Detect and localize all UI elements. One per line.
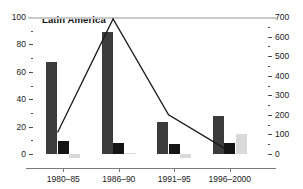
right-axis-minor-tick <box>268 27 270 28</box>
left-axis-tick <box>29 154 33 155</box>
bar-series-2-black-0 <box>58 141 69 154</box>
bar-series-3-light-3 <box>236 134 247 154</box>
right-axis-minor-tick <box>268 125 270 126</box>
left-axis-minor-tick <box>31 31 33 32</box>
chart-container: Latin America 020406080100 0100200300400… <box>0 0 303 189</box>
right-axis-tick <box>268 37 272 38</box>
right-axis-tick-label: 400 <box>275 72 289 81</box>
right-axis-tick <box>268 56 272 57</box>
right-axis-minor-tick <box>268 105 270 106</box>
right-axis-minor-tick <box>268 66 270 67</box>
bar-series-2-black-1 <box>113 143 124 154</box>
bar-series-3-light-1 <box>125 153 136 154</box>
right-axis-tick <box>268 134 272 135</box>
zero-baseline <box>28 17 276 19</box>
x-axis-category-label: 1991–95 <box>158 174 191 184</box>
left-axis-minor-tick <box>31 113 33 114</box>
left-axis-tick-label: 60 <box>17 68 26 77</box>
right-axis-tick-label: 100 <box>275 130 289 139</box>
bar-series-3-light-2 <box>180 154 191 158</box>
left-axis-minor-tick <box>31 86 33 87</box>
left-axis-tick <box>29 44 33 45</box>
bar-series-2-black-2 <box>169 144 180 154</box>
left-value-axis: 020406080100 <box>0 17 36 154</box>
bar-series-1-dark-1 <box>102 32 113 154</box>
left-axis-tick <box>29 99 33 100</box>
left-axis-tick-label: 40 <box>17 95 26 104</box>
right-axis-tick-label: 300 <box>275 91 289 100</box>
right-axis-tick-label: 0 <box>275 150 280 159</box>
x-axis-category-label: 1980–85 <box>47 174 80 184</box>
right-axis-tick <box>268 76 272 77</box>
bar-series-3-light-0 <box>69 154 80 158</box>
right-axis-tick-label: 600 <box>275 33 289 42</box>
right-axis-tick-label: 500 <box>275 52 289 61</box>
left-axis-tick-label: 80 <box>17 40 26 49</box>
right-axis-minor-tick <box>268 86 270 87</box>
left-axis-tick-label: 0 <box>21 150 26 159</box>
right-axis-tick-label: 200 <box>275 111 289 120</box>
right-axis-tick <box>268 154 272 155</box>
x-axis-tick <box>63 168 64 172</box>
bar-series-2-black-3 <box>224 143 235 154</box>
right-axis-tick <box>268 95 272 96</box>
plot-area <box>40 17 262 154</box>
left-axis-tick <box>29 72 33 73</box>
left-axis-tick-label: 100 <box>12 13 26 22</box>
x-axis-tick <box>230 168 231 172</box>
left-axis-minor-tick <box>31 140 33 141</box>
x-axis-category-label: 1986–90 <box>102 174 135 184</box>
x-axis-category-label: 1996–2000 <box>209 174 252 184</box>
x-axis-tick <box>119 168 120 172</box>
right-axis-tick-label: 700 <box>275 13 289 22</box>
bar-series-1-dark-0 <box>46 62 57 154</box>
right-axis-minor-tick <box>268 144 270 145</box>
left-axis-tick <box>29 127 33 128</box>
bar-series-1-dark-3 <box>213 116 224 154</box>
left-axis-minor-tick <box>31 58 33 59</box>
right-axis-minor-tick <box>268 46 270 47</box>
bar-series-1-dark-2 <box>157 122 168 154</box>
right-axis-tick <box>268 115 272 116</box>
x-axis-tick <box>174 168 175 172</box>
right-value-axis: 0100200300400500600700 <box>264 17 303 154</box>
left-axis-tick-label: 20 <box>17 123 26 132</box>
